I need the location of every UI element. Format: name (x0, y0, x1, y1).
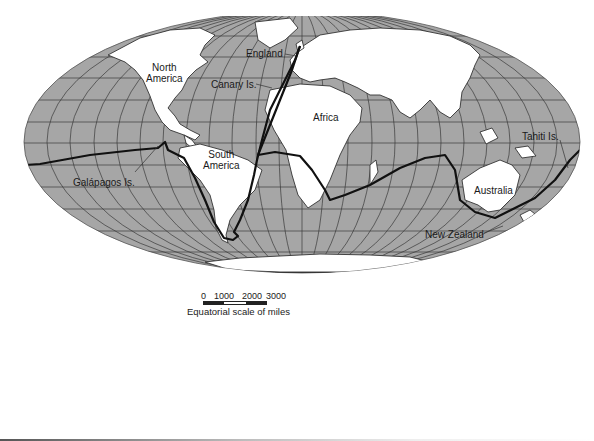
label-leader-lines (0, 0, 594, 441)
scale-bar: 0 1000 2000 3000 Equatorial scale of mil… (187, 291, 299, 317)
scale-caption: Equatorial scale of miles (187, 306, 299, 317)
scale-tick-1000: 1000 (214, 291, 234, 301)
scale-tick-3000: 3000 (266, 291, 286, 301)
scale-ticks: 0 1000 2000 3000 (187, 291, 299, 301)
scale-tick-0: 0 (201, 291, 206, 301)
scale-tick-2000: 2000 (242, 291, 262, 301)
scale-bar-graphic (203, 301, 267, 305)
